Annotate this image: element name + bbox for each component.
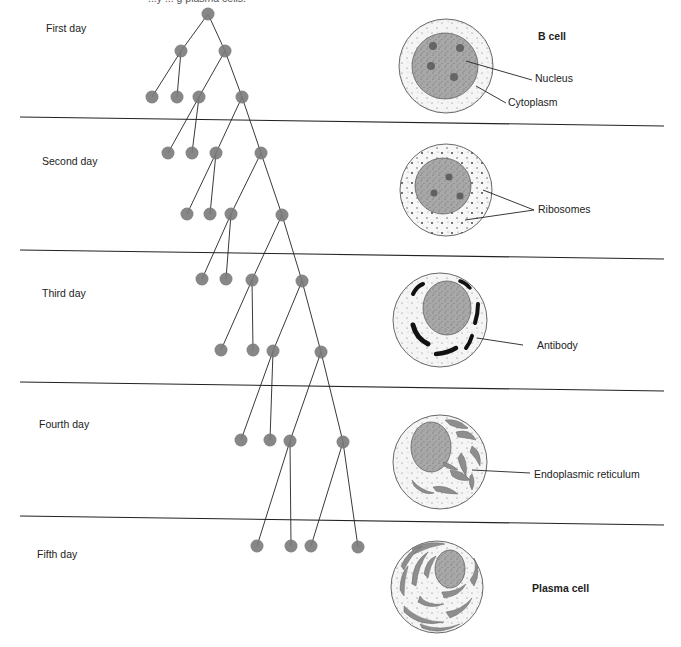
nucleus-label: Nucleus — [535, 72, 573, 84]
endoplasmic-reticulum-label: Endoplasmic reticulum — [534, 468, 640, 480]
day2-cell-illustration — [400, 144, 534, 236]
cytoplasm-label: Cytoplasm — [508, 96, 558, 108]
day4-cell-illustration — [393, 415, 530, 509]
antibody-label: Antibody — [537, 339, 578, 351]
diagram-b-cell-to-plasma-cell: ...y ... g plasma cells. — [0, 0, 681, 647]
day-label-fifth: Fifth day — [37, 548, 77, 560]
day-label-third: Third day — [42, 287, 86, 299]
cell-illustrations — [0, 0, 681, 647]
day-label-second: Second day — [42, 155, 97, 167]
b-cell-title: B cell — [538, 30, 566, 42]
day3-cell-illustration — [393, 273, 523, 367]
day-label-fourth: Fourth day — [39, 418, 89, 430]
ribosomes-label: Ribosomes — [538, 203, 591, 215]
plasma-cell-illustration — [391, 541, 483, 633]
plasma-cell-title: Plasma cell — [532, 582, 589, 594]
day-label-first: First day — [46, 22, 86, 34]
